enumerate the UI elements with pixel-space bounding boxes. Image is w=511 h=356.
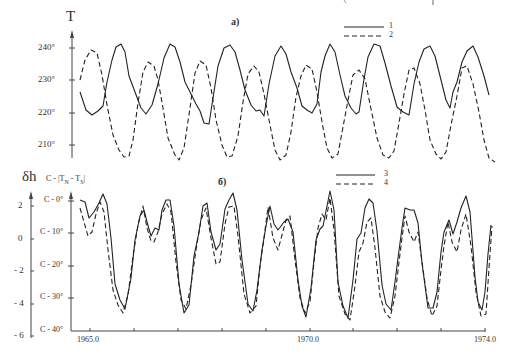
legend-key-2: 2 [389, 30, 393, 39]
ytick-left-neg2: - 2 [14, 265, 24, 275]
series-2-dashed [80, 50, 495, 162]
legend-key-4: 4 [384, 178, 388, 187]
y-axis-label-c-tn-ts: C - |TN - TS| [46, 174, 85, 185]
panel-a-axes [69, 30, 75, 158]
ytick-left-neg6: - 6 [14, 330, 24, 340]
panel-a-label: а) [231, 16, 239, 27]
legend-key-3: 3 [384, 169, 388, 178]
ytick-left-neg4: - 4 [14, 298, 24, 308]
ytick-left-2: 2 [18, 200, 23, 210]
panel-a-legend [344, 27, 384, 36]
y-axis-arrow-icon [70, 30, 74, 38]
inner-axis-arrow-icon [69, 191, 73, 199]
y-axis-label-dh: δh [22, 168, 37, 185]
ytick-230: 230° [38, 74, 55, 84]
legend-key-1: 1 [389, 21, 393, 30]
top-edge-artifact [344, 0, 346, 3]
ytick-220: 220° [38, 107, 55, 117]
ytick-210: 210° [38, 139, 55, 149]
panel-b-legend [336, 175, 375, 184]
left-axis-arrow-icon [29, 191, 33, 199]
xtick-1970: 1970.0 [297, 335, 319, 344]
panel-b-label: б) [218, 176, 226, 187]
ytick-left-0: 0 [18, 233, 23, 243]
ytick-right-c30: C - 30° [40, 292, 63, 301]
xtick-1974: 1974.0 [474, 335, 496, 344]
ytick-right-c0: C - 0° [44, 195, 63, 204]
series-3-solid [80, 191, 491, 318]
ytick-right-c10: C - 10° [40, 227, 63, 236]
series-4-dashed [80, 198, 492, 320]
xtick-1965: 1965.0 [77, 335, 99, 344]
ytick-right-c20: C - 20° [40, 260, 63, 269]
ytick-right-c40: C - 40° [40, 325, 63, 334]
y-axis-label-T: T [66, 8, 75, 25]
ytick-240: 240° [38, 42, 55, 52]
panel-b-axes [29, 191, 486, 338]
